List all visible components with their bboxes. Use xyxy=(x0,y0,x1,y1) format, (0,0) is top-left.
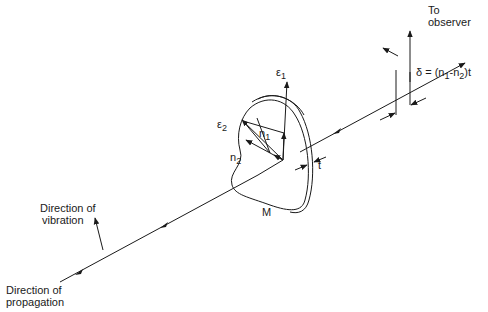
vibration-arrow-in xyxy=(95,218,103,250)
beam-inside-plate xyxy=(258,160,283,175)
label-n2: n2 xyxy=(230,151,241,166)
label-epsilon1: ε1 xyxy=(276,66,286,81)
thickness-markers xyxy=(295,157,326,170)
label-vibration-1: Direction of xyxy=(40,202,96,214)
index-vectors xyxy=(242,82,287,160)
n1-vector xyxy=(283,133,284,160)
label-to-observer-1: To xyxy=(428,4,440,16)
diagram-canvas xyxy=(0,0,488,312)
label-retardation: δ = (n1-n2)t xyxy=(416,66,471,81)
label-propagation-1: Direction of xyxy=(6,284,62,296)
label-epsilon2: ε2 xyxy=(217,118,227,133)
label-n1: n1 xyxy=(259,127,270,142)
label-propagation-2: propagation xyxy=(6,296,64,308)
label-vibration-2: vibration xyxy=(42,214,84,226)
label-material: M xyxy=(262,206,271,218)
label-to-observer-2: observer xyxy=(428,16,471,28)
birefringence-diagram: To observer δ = (n1-n2)t ε1 ε2 n1 n2 t M… xyxy=(0,0,488,312)
label-thickness: t xyxy=(318,159,321,171)
